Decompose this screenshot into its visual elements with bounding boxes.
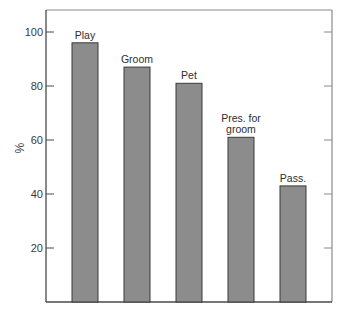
bars: PlayGroomPetPres. forgroomPass. [72, 29, 306, 302]
bar-pet [176, 83, 202, 302]
bar-chart: 20406080100 PlayGroomPetPres. forgroomPa… [0, 0, 343, 312]
y-tick-label: 20 [31, 242, 43, 254]
bar-label: Play [75, 29, 96, 41]
bar-label: Groom [121, 53, 153, 65]
y-axis-label: % [12, 143, 26, 154]
bar-label: Pass. [280, 172, 306, 184]
y-tick-label: 40 [31, 188, 43, 200]
bar-label: Pet [181, 69, 197, 81]
y-tick-label: 60 [31, 134, 43, 146]
bar-label: groom [226, 123, 256, 135]
bar-groom [124, 67, 150, 302]
bar-pres-for-groom [228, 137, 254, 302]
bar-pass [280, 186, 306, 302]
y-tick-label: 100 [25, 26, 43, 38]
y-tick-label: 80 [31, 80, 43, 92]
bar-play [72, 43, 98, 302]
